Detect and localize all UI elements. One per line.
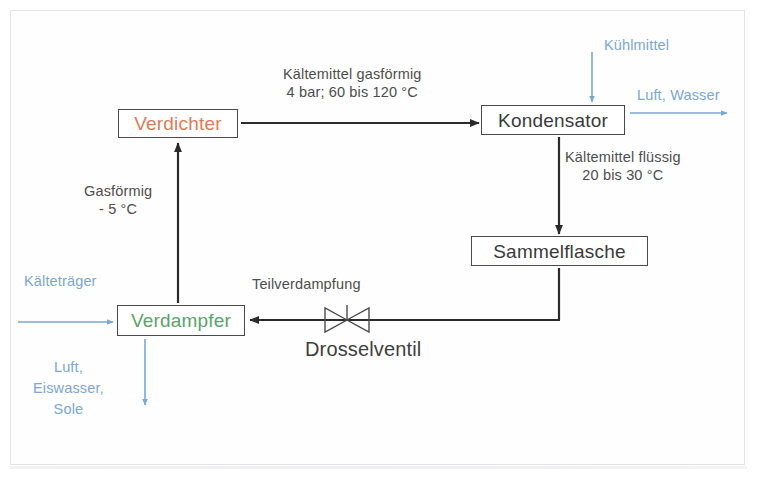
label-kaeltemittel-gasfoermig-line1: Kältemittel gasförmig bbox=[283, 65, 422, 83]
label-kaeltetraeger: Kälteträger bbox=[24, 272, 97, 290]
node-sammelflasche[interactable]: Sammelflasche bbox=[471, 236, 648, 266]
label-luft-eiswasser-sole-line3: Sole bbox=[33, 399, 104, 420]
label-kaeltemittel-gasfoermig: Kältemittel gasförmig 4 bar; 60 bis 120 … bbox=[283, 65, 422, 101]
node-verdichter[interactable]: Verdichter bbox=[118, 109, 238, 138]
node-verdampfer[interactable]: Verdampfer bbox=[117, 305, 245, 336]
label-kaeltemittel-gasfoermig-line2: 4 bar; 60 bis 120 °C bbox=[283, 83, 422, 101]
label-kuehlmittel: Kühlmittel bbox=[604, 36, 669, 54]
label-luft-eiswasser-sole: Luft, Eiswasser, Sole bbox=[33, 357, 104, 420]
label-gasfoermig: Gasförmig - 5 °C bbox=[84, 182, 152, 218]
label-gasfoermig-line2: - 5 °C bbox=[84, 200, 152, 218]
label-kaeltemittel-fluessig-line2: 20 bis 30 °C bbox=[565, 166, 681, 184]
node-verdampfer-label: Verdampfer bbox=[126, 311, 236, 330]
label-kaeltemittel-fluessig: Kältemittel flüssig 20 bis 30 °C bbox=[565, 148, 681, 184]
node-kondensator[interactable]: Kondensator bbox=[481, 105, 625, 135]
node-sammelflasche-label: Sammelflasche bbox=[488, 242, 630, 261]
label-drosselventil: Drosselventil bbox=[305, 340, 421, 358]
label-teilverdampfung: Teilverdampfung bbox=[252, 275, 361, 293]
label-kaeltemittel-fluessig-line1: Kältemittel flüssig bbox=[565, 148, 681, 166]
label-luft-eiswasser-sole-line1: Luft, bbox=[33, 357, 104, 378]
label-gasfoermig-line1: Gasförmig bbox=[84, 182, 152, 200]
label-luft-eiswasser-sole-line2: Eiswasser, bbox=[33, 378, 104, 399]
label-luft-wasser: Luft, Wasser bbox=[637, 86, 720, 104]
node-verdichter-label: Verdichter bbox=[129, 114, 227, 133]
diagram-canvas: Verdichter Kondensator Sammelflasche Ver… bbox=[0, 0, 757, 480]
node-kondensator-label: Kondensator bbox=[493, 111, 613, 130]
